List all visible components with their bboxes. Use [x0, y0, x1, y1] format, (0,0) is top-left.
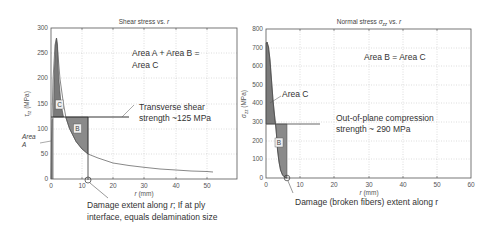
region-c-label: C — [57, 101, 62, 108]
area-a-leader-line — [40, 141, 51, 143]
right-ytick: 800 — [252, 25, 263, 32]
normal-stress-chart: 0 10 20 30 40 50 60 0 100 200 300 400 50… — [240, 18, 475, 207]
right-ytick: 500 — [252, 81, 263, 88]
left-xtick: 20 — [109, 182, 117, 189]
left-xtick: 10 — [78, 182, 86, 189]
shear-stress-chart: 0 10 20 30 40 50 0 50 100 150 200 250 30… — [21, 18, 237, 222]
right-xtick: 40 — [399, 181, 407, 188]
left-ytick: 150 — [37, 100, 48, 107]
area-c-label: Area C — [282, 89, 308, 99]
right-caption: Damage (broken fibers) extent along r — [295, 197, 438, 207]
region-b-label-right: B — [277, 139, 281, 146]
threshold-leader-line — [122, 105, 134, 117]
left-ytick: 300 — [37, 24, 48, 31]
left-xlabel: r (mm) — [134, 190, 153, 198]
left-ytick: 100 — [37, 125, 48, 132]
left-xtick: 50 — [203, 182, 211, 189]
right-xtick: 0 — [264, 181, 268, 188]
left-equation-line2: Area C — [132, 60, 158, 70]
left-ytick: 250 — [37, 49, 48, 56]
right-xlabel: r (mm) — [359, 189, 378, 197]
region-b-fill-right — [276, 124, 288, 178]
right-ytick: 100 — [252, 155, 263, 162]
right-ytick: 0 — [259, 174, 263, 181]
damage-leader-line — [90, 183, 108, 198]
left-caption-line2: interface, equals delamination size — [87, 212, 218, 222]
damage-leader-line-right — [288, 181, 293, 193]
right-ytick: 300 — [252, 118, 263, 125]
left-ytick: 50 — [41, 150, 49, 157]
figure-canvas: 0 10 20 30 40 50 0 50 100 150 200 250 30… — [0, 0, 496, 231]
left-ytick: 200 — [37, 74, 48, 81]
right-ylabel: σzz (MPa) — [240, 90, 249, 118]
right-ytick: 400 — [252, 99, 263, 106]
right-xtick: 10 — [296, 181, 304, 188]
right-chart-title: Normal stress σzz vs. r — [337, 18, 402, 27]
area-a-label-2: A — [21, 141, 26, 148]
right-xtick: 50 — [433, 181, 441, 188]
right-ytick: 200 — [252, 137, 263, 144]
left-chart-title: Shear stress vs. r — [119, 18, 170, 25]
right-ytick: 700 — [252, 44, 263, 51]
left-ylabel: τrz (MPa) — [23, 91, 32, 117]
area-a-label-1: Area — [21, 133, 36, 140]
left-equation-line1: Area A + Area B = — [132, 48, 200, 58]
right-equation: Area B = Area C — [364, 52, 426, 62]
left-caption-line1: Damage extent along r; If at ply — [87, 200, 206, 210]
region-b-fill — [66, 117, 88, 154]
compression-threshold-label-1: Out-of-plane compression — [336, 113, 434, 123]
right-ytick: 600 — [252, 62, 263, 69]
right-xtick: 60 — [467, 181, 475, 188]
compression-threshold-label-2: strength ~ 290 MPa — [336, 124, 411, 134]
left-xtick: 0 — [49, 182, 53, 189]
left-xtick: 30 — [140, 182, 148, 189]
left-xtick: 40 — [172, 182, 180, 189]
left-ytick: 0 — [44, 175, 48, 182]
right-xtick: 20 — [330, 181, 338, 188]
shear-threshold-label-2: strength ~125 MPa — [139, 113, 211, 123]
right-xtick: 30 — [365, 181, 373, 188]
region-b-label: B — [75, 125, 79, 132]
shear-threshold-label-1: Transverse shear — [139, 102, 205, 112]
